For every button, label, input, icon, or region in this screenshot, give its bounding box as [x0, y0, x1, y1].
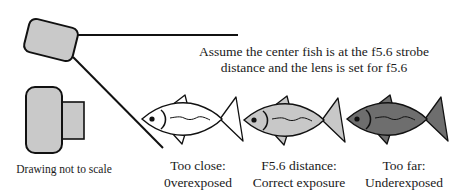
fish-eye — [354, 116, 359, 121]
headline-line-1: Assume the center fish is at the f5.6 st… — [172, 44, 456, 60]
beam-line-diagonal — [73, 57, 163, 148]
label-correct-distance-title: F5.6 distance: — [244, 157, 354, 174]
headline-line-2: distance and the lens is set for f5.6 — [172, 60, 456, 76]
scale-note: Drawing not to scale — [10, 161, 118, 177]
label-too-close: Too close: 0verexposed — [152, 157, 244, 191]
fish-eye — [251, 117, 256, 122]
label-correct-distance-result: Correct exposure — [244, 174, 354, 191]
label-correct-distance: F5.6 distance: Correct exposure — [244, 157, 354, 191]
camera — [26, 87, 84, 153]
label-too-far-result: Underexposed — [354, 174, 454, 191]
camera-body — [26, 87, 62, 153]
label-too-far: Too far: Underexposed — [354, 157, 454, 191]
fish-eye — [149, 116, 154, 121]
diagram-headline: Assume the center fish is at the f5.6 st… — [172, 44, 456, 76]
fish-too-far — [347, 95, 448, 144]
fish-correct-exposure — [244, 96, 345, 145]
label-too-close-title: Too close: — [152, 157, 244, 174]
fish-too-close — [142, 95, 243, 144]
label-too-close-result: 0verexposed — [152, 174, 244, 191]
camera-lens — [61, 102, 84, 139]
strobe-head — [23, 17, 80, 62]
exposure-diagram: Assume the center fish is at the f5.6 st… — [0, 0, 463, 193]
label-too-far-title: Too far: — [354, 157, 454, 174]
